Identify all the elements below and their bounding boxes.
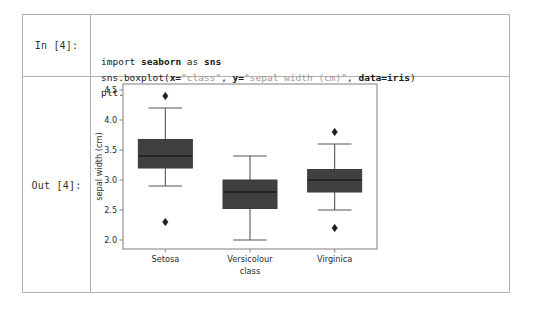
code-line-1: import seaborn as sns	[101, 54, 509, 70]
x-axis-label: class	[240, 266, 260, 276]
x-tick-label: Versicolour	[227, 254, 273, 264]
y-tick-label: 3.5	[104, 146, 117, 155]
code-token-as: as	[187, 56, 198, 67]
boxplot-figure: 2.02.53.03.54.04.5sepal width (cm)Setosa…	[91, 77, 509, 293]
box-body	[223, 180, 277, 209]
y-axis-label: sepal width (cm)	[94, 132, 104, 200]
output-cell: 2.02.53.03.54.04.5sepal width (cm)Setosa…	[91, 77, 509, 293]
y-tick-label: 3.0	[104, 176, 117, 185]
output-prompt-label: Out [4]:	[23, 77, 91, 293]
code-cell[interactable]: import seaborn as snssns.boxplot(x="clas…	[91, 15, 509, 76]
y-tick-label: 2.5	[104, 206, 117, 215]
y-tick-label: 2.0	[104, 236, 117, 245]
x-tick-label: Virginica	[317, 254, 352, 264]
input-cell-row: In [4]: import seaborn as snssns.boxplot…	[23, 15, 509, 77]
boxplot-svg: 2.02.53.03.54.04.5sepal width (cm)Setosa…	[91, 77, 510, 292]
notebook-cell-table: In [4]: import seaborn as snssns.boxplot…	[22, 14, 510, 293]
code-token-sns-alias: sns	[204, 56, 221, 67]
x-tick-label: Setosa	[151, 254, 179, 264]
code-token-import: import	[101, 56, 135, 67]
y-tick-label: 4.5	[104, 86, 117, 95]
output-cell-row: Out [4]: 2.02.53.03.54.04.5sepal width (…	[23, 77, 509, 293]
box-body	[138, 140, 192, 169]
input-prompt-label: In [4]:	[23, 15, 91, 76]
y-tick-label: 4.0	[104, 116, 117, 125]
code-token-seaborn: seaborn	[141, 56, 181, 67]
